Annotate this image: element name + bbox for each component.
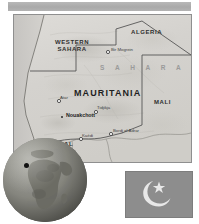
- globe-sphere: [3, 138, 87, 222]
- country-plate: WESTERN SAHARA ALGERIA MAURITANIA MALI S…: [0, 0, 199, 224]
- city-marker-atar: [57, 99, 61, 103]
- city-marker-bir-mogrein: [106, 50, 110, 54]
- globe-inset: [3, 138, 87, 222]
- capital-marker-nouakchott: [61, 116, 63, 118]
- globe-location-marker: [24, 163, 29, 168]
- city-marker-tidjikja: [94, 110, 98, 114]
- top-banner: [8, 2, 191, 11]
- city-marker-bordj-el-adrar: [109, 132, 113, 136]
- flag-of-mauritania: [125, 171, 193, 218]
